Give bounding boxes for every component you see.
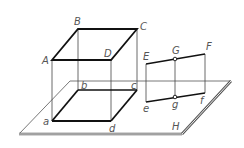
label-d-upper: D bbox=[104, 48, 112, 59]
label-b-upper: B bbox=[74, 16, 81, 27]
label-g-lower: g bbox=[172, 99, 178, 110]
label-e-lower: e bbox=[143, 103, 149, 114]
label-plane-h: H bbox=[172, 121, 180, 132]
label-a-upper: A bbox=[41, 55, 49, 66]
projection-abcd bbox=[52, 90, 137, 121]
projector-lines bbox=[52, 29, 205, 121]
square-abcd bbox=[52, 29, 137, 60]
label-c-lower: c bbox=[131, 80, 137, 91]
label-d-lower: d bbox=[109, 123, 116, 134]
point-g-upper bbox=[173, 57, 177, 61]
label-f-upper: F bbox=[206, 41, 212, 52]
plane-h bbox=[19, 81, 231, 134]
label-a-lower: a bbox=[43, 116, 49, 127]
label-b-lower: b bbox=[81, 80, 87, 91]
projection-diagram: A B C D a b c d E G F e g f H bbox=[0, 0, 244, 148]
label-c-upper: C bbox=[140, 21, 147, 32]
label-f-lower: f bbox=[200, 95, 205, 106]
label-g-upper: G bbox=[172, 45, 180, 56]
label-e-upper: E bbox=[143, 51, 150, 62]
